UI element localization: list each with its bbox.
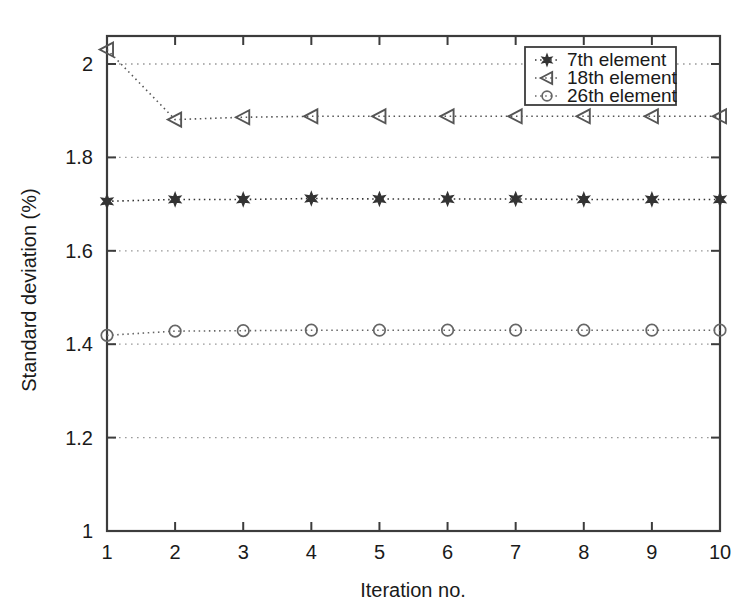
- x-tick-label-3: 4: [306, 541, 317, 563]
- y-tick-label-3: 1.6: [65, 240, 93, 262]
- x-tick-label-1: 2: [170, 541, 181, 563]
- x-tick-label-2: 3: [238, 541, 249, 563]
- y-tick-label-5: 2: [82, 53, 93, 75]
- x-tick-label-4: 5: [374, 541, 385, 563]
- y-tick-label-4: 1.8: [65, 146, 93, 168]
- legend-label-3: 26th element: [567, 85, 678, 106]
- x-tick-label-0: 1: [101, 541, 112, 563]
- x-tick-label-7: 8: [578, 541, 589, 563]
- y-tick-label-1: 1.2: [65, 427, 93, 449]
- chart-figure: 12345678910 11.21.41.61.82 Iteration no.…: [0, 0, 752, 616]
- x-tick-label-8: 9: [646, 541, 657, 563]
- y-tick-label-2: 1.4: [65, 333, 93, 355]
- x-axis-title: Iteration no.: [360, 579, 466, 601]
- y-axis-title: Standard deviation (%): [18, 188, 40, 391]
- standard-deviation-line-chart: 12345678910 11.21.41.61.82 Iteration no.…: [0, 0, 752, 616]
- x-tick-label-5: 6: [442, 541, 453, 563]
- x-tick-label-6: 7: [510, 541, 521, 563]
- y-tick-label-0: 1: [82, 520, 93, 542]
- x-tick-label-9: 10: [709, 541, 731, 563]
- chart-legend: 7th element18th element26th element: [525, 47, 678, 106]
